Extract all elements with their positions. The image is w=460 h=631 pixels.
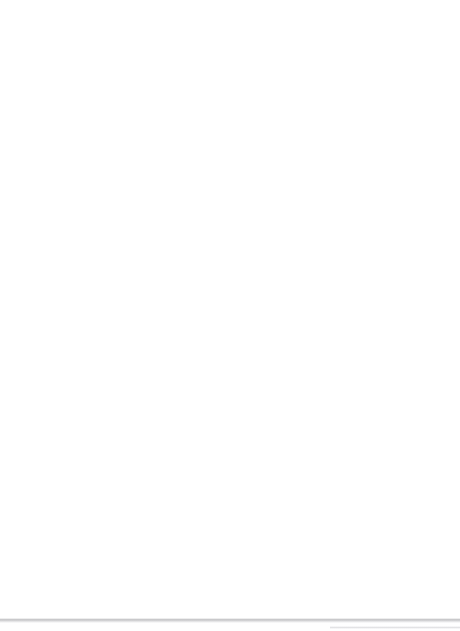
chart-qmax-per-mass-vs-age xyxy=(0,330,460,620)
bottom-scatter-plot xyxy=(0,330,460,620)
scan-line-artifact-secondary xyxy=(330,626,460,629)
top-scatter-plot xyxy=(0,0,460,320)
chart-qmax-vs-age xyxy=(0,0,460,320)
scan-line-artifact xyxy=(0,618,460,623)
